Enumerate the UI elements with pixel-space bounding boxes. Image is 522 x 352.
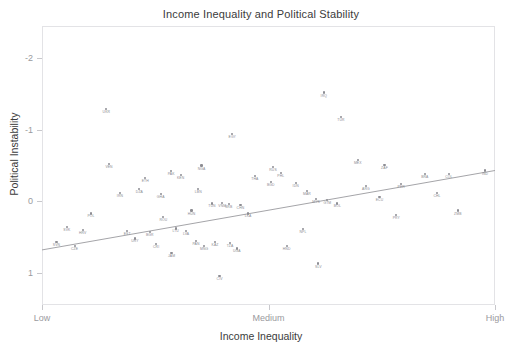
point-label: PHL	[277, 174, 284, 178]
point-label: PRY	[393, 216, 400, 220]
point-label: MEX	[354, 161, 362, 165]
point-label: ETH	[142, 179, 149, 183]
point-label: SVN	[53, 243, 60, 247]
point-label: ARG	[362, 187, 370, 191]
point-label: KAZ	[212, 243, 219, 247]
point-label: TUR	[337, 118, 344, 122]
point-label: BRA	[421, 175, 428, 179]
point-label: DZA	[136, 190, 143, 194]
chart-figure: Income Inequality and Political Stabilit…	[0, 0, 522, 352]
point-label: IND	[482, 172, 488, 176]
point-label: HRV	[79, 231, 86, 235]
point-label: CHN	[237, 206, 245, 210]
point-label: IDN	[293, 184, 299, 188]
point-label: LVA	[183, 232, 189, 236]
point-label: UGA	[233, 249, 241, 253]
point-label: URY	[131, 239, 138, 243]
point-label: GTM	[323, 201, 331, 205]
point-label: NGA	[198, 167, 206, 171]
point-label: ZMB	[454, 212, 461, 216]
point-label: UKR	[103, 110, 110, 114]
point-label: PAN	[193, 242, 200, 246]
point-label: RUS	[269, 168, 276, 172]
point-label: BGD	[267, 183, 275, 187]
point-label: SRB	[225, 205, 232, 209]
point-label: NPL	[299, 230, 306, 234]
point-label: IRN	[117, 194, 123, 198]
point-label: BOL	[334, 204, 341, 208]
point-label: CZE	[71, 247, 78, 251]
point-label: ROU	[159, 218, 167, 222]
point-label: MYS	[312, 200, 320, 204]
point-label: SVK	[63, 228, 70, 232]
point-label: EST	[124, 232, 131, 236]
point-label: MNG	[200, 247, 208, 251]
point-label: CHL	[433, 194, 440, 198]
point-label: CRI	[153, 245, 159, 249]
point-label: IRQ	[321, 94, 327, 98]
point-label: HUN	[188, 212, 196, 216]
point-label: POL	[87, 214, 94, 218]
point-label: VEN	[105, 165, 112, 169]
point-label: LTU	[172, 229, 178, 233]
point-label: EGY	[229, 135, 236, 139]
point-label: JAM	[168, 254, 175, 258]
point-label: ECU	[376, 198, 383, 202]
point-label: ZAF	[381, 166, 388, 170]
point-label: LKA	[245, 214, 252, 218]
point-label: TZA	[227, 244, 234, 248]
point-label: TUN	[208, 204, 215, 208]
point-label: GHA	[157, 195, 165, 199]
point-label: BGR	[146, 233, 154, 237]
point-label: KEN	[177, 176, 184, 180]
trendline	[0, 0, 522, 352]
point-label: THA	[251, 177, 258, 181]
point-label: LBN	[195, 190, 202, 194]
point-label: COL	[445, 175, 452, 179]
point-label: CIV	[217, 277, 223, 281]
point-label: SLV	[315, 265, 321, 269]
point-label: PAK	[168, 172, 175, 176]
point-label: PER	[398, 185, 405, 189]
point-label: MAR	[303, 192, 311, 196]
point-label: HND	[283, 247, 291, 251]
